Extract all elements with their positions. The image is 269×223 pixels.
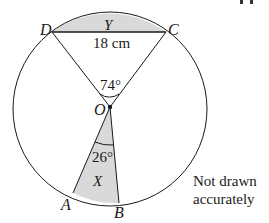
label-d: D [40, 22, 52, 38]
chord-length-label: 18 cm [93, 36, 130, 51]
corner-fragment-1 [240, 0, 243, 4]
angle-arc-doc [100, 94, 119, 97]
label-c: C [168, 22, 179, 38]
note-line-1: Not drawn [193, 172, 257, 190]
corner-fragment-2 [250, 0, 253, 4]
note-line-2: accurately [193, 190, 257, 208]
label-b: B [114, 205, 124, 221]
label-y: Y [104, 18, 112, 33]
label-x: X [93, 174, 102, 189]
not-drawn-accurately-note: Not drawn accurately [193, 172, 257, 208]
angle-aob-label: 26° [92, 150, 113, 165]
label-o: O [94, 102, 106, 118]
label-a: A [61, 197, 71, 213]
center-point-o [108, 105, 112, 109]
angle-doc-label: 74° [100, 78, 121, 93]
